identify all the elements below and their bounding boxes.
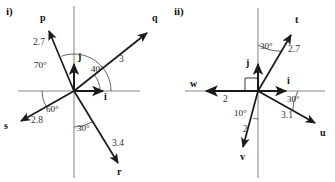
panel-ii-graphics (168, 0, 335, 182)
magnitude-u: 3.1 (281, 111, 293, 121)
vector-label-w: w (190, 79, 197, 89)
vector-label-u: u (320, 128, 326, 138)
unit-vector-label-j: j (246, 58, 249, 68)
vector-q (74, 33, 147, 91)
panel-i-graphics (0, 0, 168, 182)
unit-vector-label-i: i (104, 92, 107, 102)
vector-label-v: v (240, 152, 245, 162)
vector-p (49, 31, 74, 91)
vector-label-t: t (295, 15, 298, 25)
part-label-ii: ii) (174, 6, 184, 17)
angle-label-30: 30° (77, 124, 90, 133)
angle-label-40: 40° (91, 65, 104, 74)
magnitude-v: 2 (243, 125, 248, 135)
unit-vector-label-i: i (287, 76, 290, 86)
angle-label-10: 10° (234, 109, 247, 118)
vector-label-r: r (117, 167, 121, 177)
magnitude-p: 2.7 (33, 38, 45, 48)
angle-arc-40 (94, 74, 100, 91)
magnitude-r: 3.4 (112, 139, 124, 149)
vector-label-s: s (4, 121, 8, 131)
panel-i: i) j i p q s r 2.7 3 2.8 3.4 70° 40° 60°… (0, 0, 168, 182)
vector-diagram-figure: i) j i p q s r 2.7 3 2.8 3.4 70° 40° 60°… (0, 0, 335, 182)
panel-ii: ii) j i t u v w 2.7 3.1 2 2 30° 30° 10° (168, 0, 335, 182)
magnitude-q: 3 (119, 55, 124, 65)
vector-label-p: p (40, 13, 46, 23)
magnitude-s: 2.8 (31, 116, 43, 126)
angle-label-30-right: 30° (287, 95, 300, 104)
vector-label-q: q (152, 13, 158, 23)
right-angle-marker (245, 78, 258, 91)
angle-label-70: 70° (34, 61, 47, 70)
unit-vector-label-j: j (78, 52, 81, 62)
magnitude-t: 2.7 (288, 45, 300, 55)
part-label-i: i) (6, 6, 13, 17)
magnitude-w: 2 (223, 95, 228, 105)
angle-label-30-top: 30° (260, 42, 273, 51)
angle-label-60: 60° (46, 105, 59, 114)
